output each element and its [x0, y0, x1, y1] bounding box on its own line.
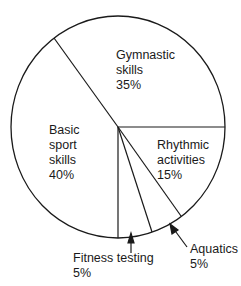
svg-text:40%: 40%	[49, 168, 74, 182]
svg-text:Aquatics: Aquatics	[190, 242, 238, 256]
svg-text:skills: skills	[116, 63, 143, 77]
svg-text:Fitness testing: Fitness testing	[73, 251, 154, 265]
svg-text:sport: sport	[49, 138, 77, 152]
svg-text:35%: 35%	[116, 78, 141, 92]
svg-text:Rhythmic: Rhythmic	[157, 138, 209, 152]
svg-text:15%: 15%	[157, 168, 182, 182]
slice-label-fitness: Fitness testing 5%	[73, 251, 154, 280]
svg-text:5%: 5%	[73, 266, 91, 280]
svg-text:skills: skills	[49, 153, 76, 167]
svg-text:Gymnastic: Gymnastic	[116, 48, 175, 62]
svg-text:activities: activities	[157, 153, 205, 167]
svg-text:Basic: Basic	[49, 123, 80, 137]
pie-chart: Gymnastic skills 35% Basic sport skills …	[0, 0, 241, 286]
slice-label-aquatics: Aquatics 5%	[190, 242, 238, 271]
svg-text:5%: 5%	[190, 257, 208, 271]
